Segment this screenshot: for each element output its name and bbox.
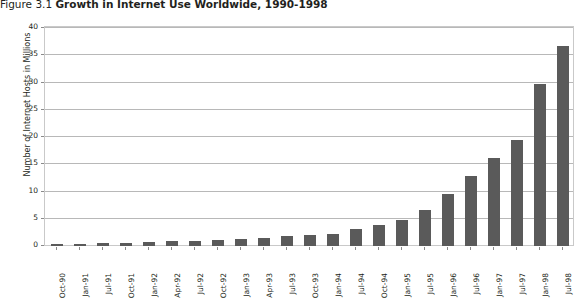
x-axis-tick-label: Jan-94 (335, 273, 343, 302)
x-axis-tick-label: Oct-94 (381, 273, 389, 302)
x-axis-tick-mark (79, 247, 80, 250)
x-axis-tick-label: Jan-93 (243, 273, 251, 302)
x-axis-tick-label: Apr-92 (174, 273, 182, 302)
x-axis-tick-mark (447, 247, 448, 250)
x-axis-tick-mark (332, 247, 333, 250)
x-axis-tick-mark (263, 247, 264, 250)
bar[interactable] (442, 194, 454, 246)
bars-group (46, 28, 574, 246)
x-axis-tick-label: Oct-92 (220, 273, 228, 302)
x-axis-tick-label: Oct-90 (59, 273, 67, 302)
bar[interactable] (51, 244, 63, 246)
bar[interactable] (143, 242, 155, 246)
x-axis-tick-mark (516, 247, 517, 250)
bar-slot (413, 28, 436, 246)
bar[interactable] (350, 229, 362, 246)
x-axis-tick-mark (125, 247, 126, 250)
bar-slot (551, 28, 574, 246)
bar[interactable] (396, 220, 408, 246)
bar-slot (92, 28, 115, 246)
x-axis-tick-mark (309, 247, 310, 250)
bar[interactable] (189, 241, 201, 246)
bar[interactable] (488, 158, 500, 246)
x-axis-tick-mark (378, 247, 379, 250)
x-axis-tick-label: Oct-91 (128, 273, 136, 302)
y-axis-tick-label: 30 (8, 78, 38, 86)
y-axis-tick-label: 25 (8, 105, 38, 113)
x-axis-tick-label: Jul-91 (105, 273, 113, 302)
bar-slot (321, 28, 344, 246)
bar-slot (528, 28, 551, 246)
bar[interactable] (120, 243, 132, 246)
bar[interactable] (534, 84, 546, 246)
x-axis-tick-label: Jan-95 (404, 273, 412, 302)
y-axis-tick-label: 35 (8, 50, 38, 58)
bar[interactable] (419, 210, 431, 246)
x-axis-tick-mark (217, 247, 218, 250)
bar[interactable] (373, 225, 385, 246)
x-axis-tick-label: Apr-93 (266, 273, 274, 302)
x-axis-tick-label: Jan-96 (450, 273, 458, 302)
x-axis-tick-label: Jul-96 (473, 273, 481, 302)
bar[interactable] (281, 236, 293, 246)
bar-slot (184, 28, 207, 246)
bar[interactable] (327, 234, 339, 246)
bar-slot (367, 28, 390, 246)
y-axis-tick-label: 0 (8, 241, 38, 249)
x-axis-tick-label: Jul-98 (565, 273, 573, 302)
y-axis-tick-label: 15 (8, 159, 38, 167)
x-axis-tick-mark (470, 247, 471, 250)
bar[interactable] (166, 241, 178, 246)
x-axis: Oct-90Jan-91Jul-91Oct-91Jan-92Apr-92Jul-… (45, 247, 573, 274)
bar-slot (505, 28, 528, 246)
x-axis-tick-mark (401, 247, 402, 250)
x-axis-tick-label: Jul-97 (519, 273, 527, 302)
bar[interactable] (304, 235, 316, 246)
x-axis-tick-label: Oct-93 (312, 273, 320, 302)
bar-slot (390, 28, 413, 246)
x-axis-tick-mark (240, 247, 241, 250)
y-axis-tick-label: 10 (8, 187, 38, 195)
bar[interactable] (258, 238, 270, 246)
x-axis-tick-mark (424, 247, 425, 250)
bar-slot (482, 28, 505, 246)
y-axis-tick-label: 20 (8, 132, 38, 140)
bar-slot (69, 28, 92, 246)
x-axis-tick-label: Jul-95 (427, 273, 435, 302)
x-axis-tick-mark (355, 247, 356, 250)
bar-slot (459, 28, 482, 246)
bar[interactable] (511, 140, 523, 246)
bar-slot (161, 28, 184, 246)
bar[interactable] (97, 243, 109, 246)
bar-slot (344, 28, 367, 246)
x-axis-tick-label: Jul-92 (197, 273, 205, 302)
bar-slot (253, 28, 276, 246)
y-axis-tick-label: 5 (8, 214, 38, 222)
bar-slot (115, 28, 138, 246)
x-axis-tick-mark (539, 247, 540, 250)
bar[interactable] (465, 176, 477, 246)
x-axis-tick-mark (171, 247, 172, 250)
bar-slot (138, 28, 161, 246)
x-axis-tick-label: Jan-98 (542, 273, 550, 302)
bar-slot (276, 28, 299, 246)
x-axis-tick-label: Jan-97 (496, 273, 504, 302)
x-axis-tick-mark (148, 247, 149, 250)
bar-slot (299, 28, 322, 246)
bar-slot (230, 28, 253, 246)
x-axis-tick-label: Jul-93 (289, 273, 297, 302)
bar[interactable] (235, 239, 247, 246)
plot-area (44, 26, 574, 246)
bar[interactable] (557, 46, 569, 246)
bar-slot (436, 28, 459, 246)
bar-slot (46, 28, 69, 246)
x-axis-tick-mark (56, 247, 57, 250)
x-axis-tick-mark (102, 247, 103, 250)
x-axis-tick-mark (493, 247, 494, 250)
bar[interactable] (74, 244, 86, 246)
bar[interactable] (212, 240, 224, 246)
x-axis-tick-label: Jan-91 (82, 273, 90, 302)
x-axis-tick-mark (286, 247, 287, 250)
bar-slot (207, 28, 230, 246)
